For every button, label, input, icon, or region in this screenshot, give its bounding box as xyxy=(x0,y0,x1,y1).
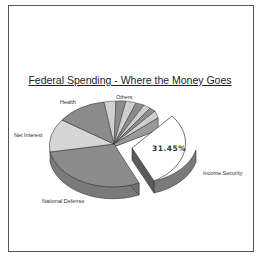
label-income-security: Income Security xyxy=(203,170,242,176)
label-health: Health xyxy=(60,99,76,105)
label-others: Others xyxy=(116,94,133,100)
income-security-percent: 31.45% xyxy=(152,144,186,153)
label-national-defense: National Defense xyxy=(42,198,84,204)
label-net-interest: Net Interest xyxy=(14,132,42,138)
